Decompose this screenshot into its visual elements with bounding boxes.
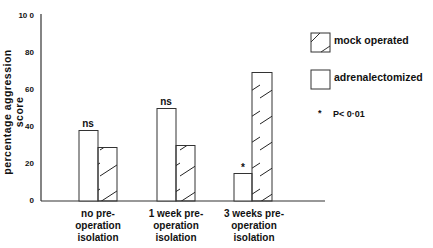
footnote-star: *	[318, 108, 322, 118]
annotation-star: *	[231, 162, 255, 173]
bar-adrenal-3-weeks	[234, 174, 252, 202]
footnote-text: P< 0·01	[333, 109, 365, 119]
bar-mock-3-weeks	[252, 73, 272, 202]
bar-mock-1-week	[176, 146, 195, 202]
annotation-ns-2: ns	[154, 96, 178, 107]
annotation-ns-1: ns	[76, 118, 100, 129]
legend-label-mock: mock operated	[334, 34, 409, 46]
bar-mock-no-isolation	[98, 148, 117, 202]
legend-label-adrenal: adrenalectomized	[334, 71, 423, 83]
bar-adrenal-no-isolation	[79, 131, 98, 202]
bar-adrenal-1-week	[157, 109, 176, 202]
x-category-3: 3 weeks pre- operation isolation	[214, 208, 294, 244]
x-category-2: 1 week pre- operation isolation	[136, 208, 216, 244]
legend-swatch-mock	[311, 33, 330, 52]
legend-swatch-adrenal	[311, 70, 330, 89]
x-category-1: no pre- operation isolation	[58, 208, 138, 244]
